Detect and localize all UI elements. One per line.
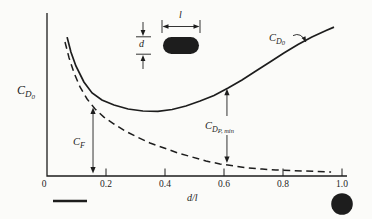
pressure-min-label-base: C	[205, 120, 212, 131]
cf-double-arrow	[90, 108, 95, 174]
body-shape-pill	[163, 37, 199, 54]
x-tick-label: 1.0	[336, 179, 348, 189]
x-tick-label: 0.6	[218, 179, 230, 189]
circle-body-icon	[331, 193, 353, 215]
x-tick-label: 0.8	[277, 179, 289, 189]
y-axis-label: CD0	[17, 81, 35, 101]
friction-label-sub: F	[80, 141, 85, 150]
bluff-body-symbol	[331, 193, 353, 215]
dim-arrow-down	[141, 30, 146, 36]
total-drag-curve	[67, 27, 334, 111]
dim-arrow-right	[194, 24, 200, 29]
pressure-min-label-subsub: P, min	[218, 127, 234, 134]
x-tick-label: 0.2	[100, 179, 112, 189]
friction-drag-curve	[65, 42, 331, 172]
y-axis-label-subsub: 0	[32, 93, 36, 101]
axes	[47, 13, 347, 176]
x-tick-label: 0	[42, 179, 47, 189]
inset-body-diagram	[163, 37, 199, 54]
friction-drag-label: CF	[73, 132, 85, 150]
arrowhead-down	[90, 167, 95, 174]
drag-coefficient-figure: CD0 CD0 CF CDP, min d/l l d 00.20.40.60.…	[0, 0, 372, 219]
inset-length-label: l	[179, 10, 182, 20]
arrowhead-down	[224, 157, 229, 164]
chart-canvas	[0, 0, 372, 219]
total-drag-label-base: C	[269, 32, 276, 43]
dim-arrow-left	[163, 24, 169, 29]
total-drag-label-subsub: 0	[282, 39, 285, 46]
total-drag-curve-label: CD0	[269, 28, 285, 47]
friction-label-base: C	[73, 136, 80, 147]
x-tick-label: 0.4	[159, 179, 171, 189]
pressure-drag-min-label: CDP, min	[204, 116, 235, 135]
inset-length-dimension	[162, 20, 200, 33]
total-drag-curve-group	[67, 27, 334, 111]
dim-arrow-up	[141, 55, 146, 61]
x-ticks	[106, 169, 342, 177]
x-axis-title: d/l	[187, 193, 198, 203]
inset-diameter-label: d	[139, 39, 144, 49]
y-axis-label-base: C	[17, 83, 25, 97]
friction-drag-curve-group	[65, 42, 331, 172]
